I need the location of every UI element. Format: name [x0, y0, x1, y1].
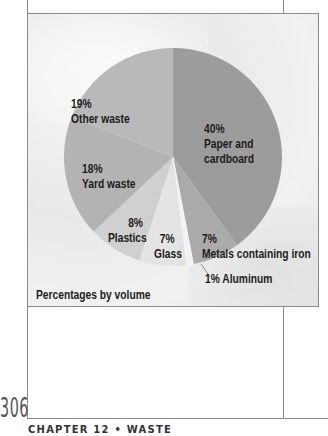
label-paper-cardboard: 40% Paper and cardboard [204, 122, 254, 167]
label-metals-iron: 7% Metals containing iron [202, 232, 311, 262]
pie-chart [28, 14, 319, 307]
label-pct: 7% [202, 232, 311, 247]
label-glass: 7% Glass [154, 232, 182, 262]
chapter-footer: CHAPTER 12 • WASTE [28, 423, 172, 435]
label-other-waste: 19% Other waste [71, 97, 130, 127]
page-number: 306 [0, 396, 29, 420]
column-divider-bottom [283, 306, 284, 419]
label-pct: 19% [71, 97, 130, 112]
label-pct: 1% [205, 272, 220, 286]
label-name: Other waste [71, 112, 130, 127]
chart-frame: 19% Other waste 40% Paper and cardboard … [27, 13, 319, 307]
label-name: Plastics [108, 231, 147, 246]
label-name: Glass [154, 247, 182, 262]
label-name: Yard waste [82, 177, 136, 192]
label-pct: 7% [154, 232, 182, 247]
label-name: Paper and [204, 137, 254, 152]
label-pct: 40% [204, 122, 254, 137]
top-box-left-border [27, 0, 28, 14]
label-plastics: 8% Plastics [108, 216, 147, 246]
label-pct: 8% [108, 216, 147, 231]
label-yard-waste: 18% Yard waste [82, 162, 136, 192]
label-name: Aluminum [222, 272, 272, 286]
bottom-rule [27, 418, 328, 419]
chart-caption: Percentages by volume [36, 288, 151, 302]
column-divider-top [283, 0, 284, 14]
label-aluminum: 1% Aluminum [205, 272, 272, 287]
label-name-line2: cardboard [204, 152, 254, 167]
label-pct: 18% [82, 162, 136, 177]
label-name: Metals containing iron [202, 247, 311, 262]
